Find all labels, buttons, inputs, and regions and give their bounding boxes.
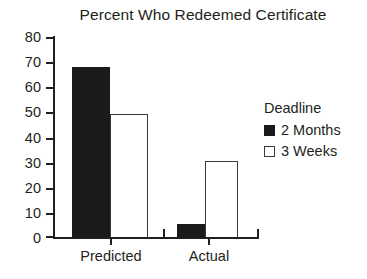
y-tick-60 xyxy=(46,87,53,89)
legend-label-2-months: 2 Months xyxy=(281,122,341,138)
y-tick-label-60: 60 xyxy=(25,79,41,95)
x-axis-label-predicted: Predicted xyxy=(80,248,141,264)
y-tick-10 xyxy=(46,213,53,215)
y-tick-label-0: 0 xyxy=(33,230,41,246)
filled-square-icon xyxy=(264,125,275,136)
x-axis-label-actual: Actual xyxy=(189,248,229,264)
bar-chart: Percent Who Redeemed Certificate 80 70 6… xyxy=(0,0,367,279)
y-tick-label-50: 50 xyxy=(25,104,41,120)
x-sep-tick-middle xyxy=(163,229,165,237)
y-tick-label-70: 70 xyxy=(25,54,41,70)
bar-predicted-2-months xyxy=(72,67,110,238)
y-tick-40 xyxy=(46,138,53,140)
legend-item-2-months[interactable]: 2 Months xyxy=(264,122,364,138)
y-tick-70 xyxy=(46,62,53,64)
legend: Deadline 2 Months 3 Weeks xyxy=(264,100,364,164)
y-tick-0 xyxy=(46,236,53,238)
y-tick-label-10: 10 xyxy=(25,205,41,221)
y-tick-label-20: 20 xyxy=(25,180,41,196)
y-tick-label-80: 80 xyxy=(25,29,41,45)
y-tick-30 xyxy=(46,163,53,165)
x-cat-tick-actual xyxy=(208,237,210,245)
plot-area xyxy=(53,37,258,238)
legend-title: Deadline xyxy=(264,100,364,116)
x-sep-tick-right xyxy=(257,229,259,237)
legend-label-3-weeks: 3 Weeks xyxy=(281,143,337,159)
bar-predicted-3-weeks xyxy=(110,114,148,238)
y-tick-50 xyxy=(46,112,53,114)
chart-title: Percent Who Redeemed Certificate xyxy=(58,6,348,24)
x-sep-tick-left xyxy=(53,229,55,237)
y-tick-20 xyxy=(46,188,53,190)
bar-actual-3-weeks xyxy=(205,161,238,238)
y-tick-label-30: 30 xyxy=(25,155,41,171)
x-axis xyxy=(53,237,259,247)
y-tick-80 xyxy=(46,37,53,39)
x-cat-tick-predicted xyxy=(110,237,112,245)
legend-item-3-weeks[interactable]: 3 Weeks xyxy=(264,143,364,159)
y-tick-label-40: 40 xyxy=(25,130,41,146)
hollow-square-icon xyxy=(264,146,275,157)
bar-actual-2-months xyxy=(177,224,205,238)
